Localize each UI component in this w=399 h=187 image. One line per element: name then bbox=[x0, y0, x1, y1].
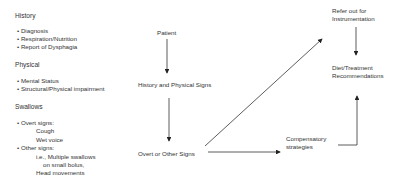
flow-arrows bbox=[0, 0, 399, 187]
arrow-overt-to-refer bbox=[205, 39, 322, 146]
arrow-compensatory-to-diet bbox=[338, 96, 357, 145]
